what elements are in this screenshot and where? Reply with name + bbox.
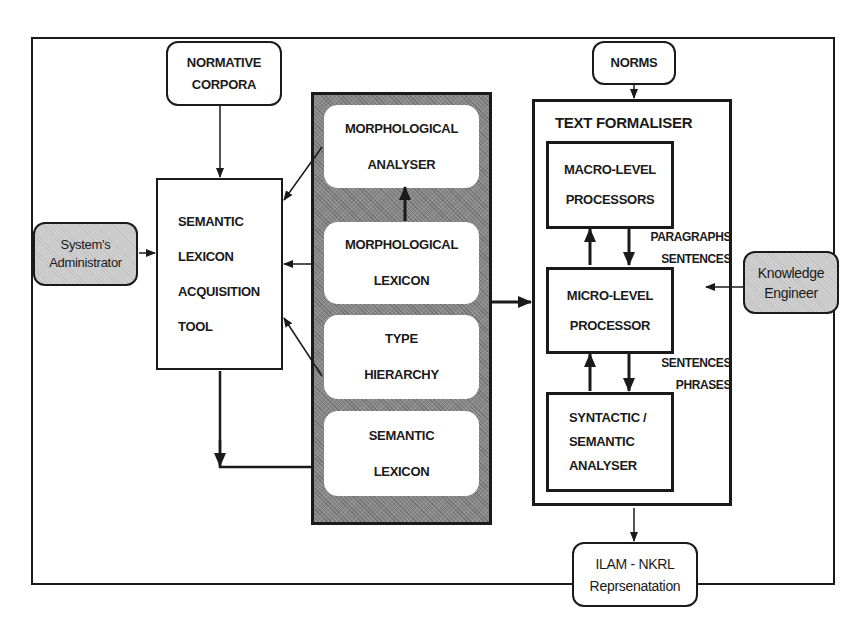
arrow-hierarchy-to-tool bbox=[284, 318, 322, 376]
connector-layer bbox=[0, 0, 867, 636]
arrow-analyser-to-tool bbox=[284, 147, 322, 200]
arrow-tool-to-semantic-lexicon bbox=[220, 371, 311, 467]
